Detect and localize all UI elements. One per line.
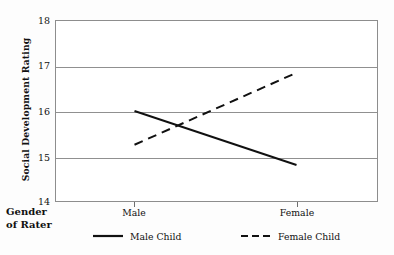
legend-label-male-child: Male Child <box>130 231 182 242</box>
y-tick-label-15: 15 <box>20 152 50 163</box>
chart-figure: Social Development Rating 18 17 16 15 14… <box>0 0 394 255</box>
series-line-female-child <box>135 73 297 145</box>
y-tick-label-16: 16 <box>20 106 50 117</box>
x-tick-label-female: Female <box>280 207 314 218</box>
legend-item-female-child: Female Child <box>241 228 340 244</box>
y-tick-label-17: 17 <box>20 60 50 71</box>
legend-label-female-child: Female Child <box>278 231 340 242</box>
series-line-male-child <box>135 111 297 165</box>
chart-legend: Male Child Female Child <box>55 228 378 248</box>
legend-item-male-child: Male Child <box>93 228 182 244</box>
legend-swatch-dashed-icon <box>241 231 271 241</box>
legend-swatch-solid-icon <box>93 231 123 241</box>
y-tick-label-18: 18 <box>20 15 50 26</box>
x-axis-title-line1: Gender <box>6 206 72 219</box>
plot-area <box>55 20 378 202</box>
x-tick-label-male: Male <box>122 207 146 218</box>
series-svg <box>56 21 377 201</box>
